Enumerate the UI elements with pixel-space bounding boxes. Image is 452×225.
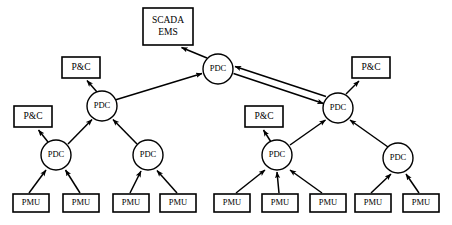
link-pdc-right1-to-pdc-top-inbound xyxy=(235,67,326,97)
link-pdc-top-to-scada xyxy=(182,48,208,59)
pnc-left-top-label: P&C xyxy=(71,62,90,72)
link-pdc-left1-to-pnc-left-top xyxy=(87,81,97,93)
pdc-left1-label: PDC xyxy=(94,100,111,110)
link-pmu-2-to-pdc-left2a xyxy=(66,170,81,193)
pmu-4-label: PMU xyxy=(169,197,187,207)
node-pdc-left2b[interactable]: PDC xyxy=(133,140,163,170)
link-pmu-8-to-pdc-right2b xyxy=(371,174,391,193)
pdc-top-label: PDC xyxy=(210,63,227,73)
link-pdc-left2a-to-pnc-left-low xyxy=(39,130,49,142)
node-pmu-1[interactable]: PMU xyxy=(13,194,49,212)
node-pnc-right-top[interactable]: P&C xyxy=(352,57,390,78)
node-pmu-2[interactable]: PMU xyxy=(63,194,99,212)
pnc-left-low-label: P&C xyxy=(23,111,42,121)
pmu-3-label: PMU xyxy=(122,197,140,207)
node-pnc-left-low[interactable]: P&C xyxy=(14,106,52,127)
node-pmu-4[interactable]: PMU xyxy=(160,194,196,212)
link-pdc-right2a-to-pdc-right1 xyxy=(290,120,326,145)
pdc-left2a-label: PDC xyxy=(48,149,65,159)
link-pmu-4-to-pdc-left2b xyxy=(157,171,177,194)
scada-ems-label-line2: EMS xyxy=(158,27,178,37)
pmu-8-label: PMU xyxy=(364,197,382,207)
node-pdc-right2a[interactable]: PDC xyxy=(262,140,292,170)
link-pmu-9-to-pdc-right2b xyxy=(406,174,419,193)
link-pmu-6-to-pdc-right2a xyxy=(277,172,279,193)
pmu-1-label: PMU xyxy=(22,197,40,207)
pmu-9-label: PMU xyxy=(412,197,430,207)
link-pdc-top-to-pdc-right1-outbound xyxy=(234,74,324,104)
node-pmu-8[interactable]: PMU xyxy=(355,194,391,212)
pdc-right1-label: PDC xyxy=(330,102,347,112)
link-pmu-3-to-pdc-left2b xyxy=(130,171,141,193)
link-pdc-right2b-to-pdc-right1 xyxy=(350,120,388,147)
link-pdc-left2a-to-pdc-left1 xyxy=(68,120,92,145)
link-pmu-5-to-pdc-right2a xyxy=(236,170,265,193)
node-pmu-6[interactable]: PMU xyxy=(262,194,298,212)
network-diagram: SCADA EMS PDC P&C PDC P&C xyxy=(0,0,452,225)
node-pdc-left1[interactable]: PDC xyxy=(87,91,117,121)
node-pdc-top[interactable]: PDC xyxy=(203,54,233,84)
pmu-6-label: PMU xyxy=(271,197,289,207)
node-pdc-right1[interactable]: PDC xyxy=(323,93,353,123)
pmu-7-label: PMU xyxy=(319,197,337,207)
pmu-2-label: PMU xyxy=(72,197,90,207)
pdc-left2b-label: PDC xyxy=(140,149,157,159)
node-pmu-9[interactable]: PMU xyxy=(403,194,439,212)
pdc-right2b-label: PDC xyxy=(390,152,407,162)
node-scada-ems[interactable]: SCADA EMS xyxy=(143,8,193,45)
link-pmu-7-to-pdc-right2a xyxy=(290,170,322,193)
scada-ems-label-line1: SCADA xyxy=(152,15,184,25)
node-pdc-right2b[interactable]: PDC xyxy=(383,143,413,173)
node-group: SCADA EMS PDC P&C PDC P&C xyxy=(13,8,439,212)
node-pdc-left2a[interactable]: PDC xyxy=(41,140,71,170)
node-pmu-5[interactable]: PMU xyxy=(214,194,250,212)
node-pnc-left-top[interactable]: P&C xyxy=(62,57,100,78)
node-pmu-3[interactable]: PMU xyxy=(113,194,149,212)
diagram-canvas: SCADA EMS PDC P&C PDC P&C xyxy=(0,0,452,225)
node-pnc-right-mid[interactable]: P&C xyxy=(245,106,283,127)
pnc-right-top-label: P&C xyxy=(361,62,380,72)
link-pmu-1-to-pdc-left2a xyxy=(29,170,46,193)
pnc-right-mid-label: P&C xyxy=(254,111,273,121)
node-pmu-7[interactable]: PMU xyxy=(310,194,346,212)
pmu-5-label: PMU xyxy=(223,197,241,207)
pdc-right2a-label: PDC xyxy=(269,149,286,159)
link-pdc-left1-to-pdc-top xyxy=(115,74,202,101)
link-pdc-left2b-to-pdc-left1 xyxy=(113,120,137,145)
link-pdc-right2a-to-pnc-right-mid xyxy=(264,130,272,142)
link-pdc-right1-to-pnc-right-top xyxy=(346,81,359,94)
